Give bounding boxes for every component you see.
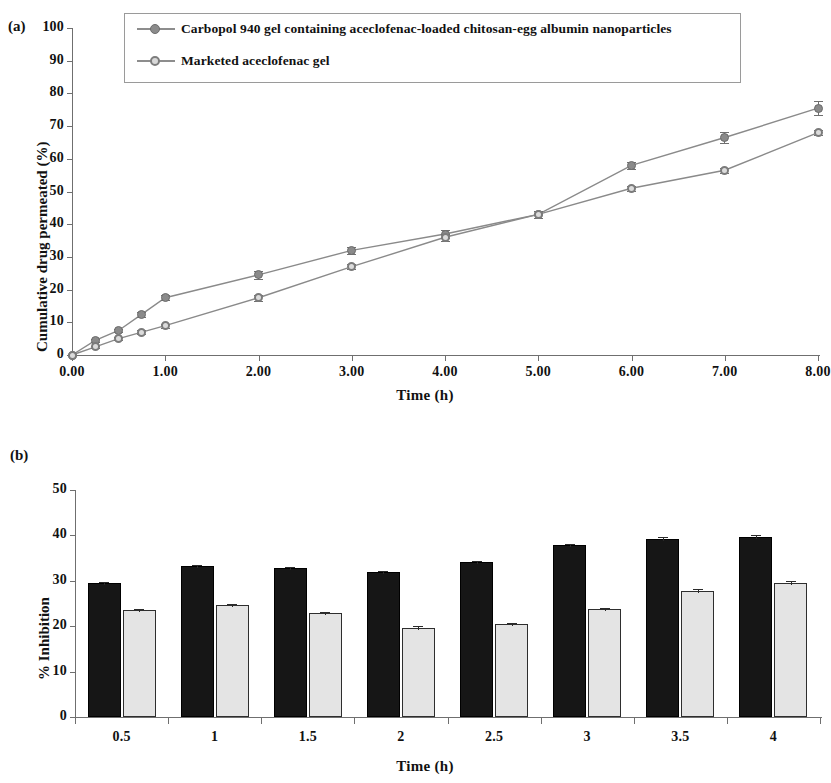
x-tick-label-a: 8.00 — [784, 364, 831, 380]
y-tick-b — [70, 672, 75, 673]
figure-root: (a) Cumulative drug permeated (%) 010203… — [0, 0, 831, 783]
bar-nanoparticle — [274, 568, 307, 717]
data-point-series1 — [534, 210, 543, 219]
y-tick-label-b: 50 — [19, 481, 67, 497]
data-point-series1 — [161, 321, 170, 330]
y-tick-label-a: 60 — [14, 150, 64, 166]
y-tick-label-b: 40 — [19, 526, 67, 542]
x-tick-label-b: 0.5 — [82, 729, 162, 745]
bar-marketed — [402, 628, 435, 717]
legend-entry-marketed-a: Marketed aceclofenac gel — [137, 53, 330, 69]
x-tick-b-end — [820, 718, 821, 724]
legend-label-nanoparticle-a: Carbopol 940 gel containing aceclofenac-… — [181, 21, 672, 37]
bar-error-cap — [192, 565, 202, 566]
bar-nanoparticle — [646, 539, 679, 717]
series-line-1 — [72, 133, 818, 355]
bar-nanoparticle — [460, 562, 493, 717]
line-chart-panel-a: Cumulative drug permeated (%) 0102030405… — [0, 0, 831, 420]
x-axis-title-a: Time (h) — [345, 387, 505, 404]
x-tick-label-a: 1.00 — [131, 364, 199, 380]
legend-label-marketed-a: Marketed aceclofenac gel — [181, 53, 330, 69]
bar-marketed — [495, 624, 528, 717]
bar-nanoparticle — [181, 566, 214, 717]
bar-nanoparticle — [553, 545, 586, 717]
y-tick-label-b: 0 — [19, 708, 67, 724]
data-point-series1 — [814, 128, 823, 137]
bar-error-cap — [320, 612, 330, 613]
data-point-series0 — [814, 104, 823, 113]
y-tick-b — [70, 581, 75, 582]
x-tick-b — [448, 718, 449, 724]
bar-error-cap — [751, 535, 761, 536]
y-tick-b — [70, 626, 75, 627]
x-tick-label-a: 4.00 — [411, 364, 479, 380]
bar-marketed — [588, 609, 621, 717]
legend-line-filled-icon — [137, 28, 175, 30]
error-cap-top-a — [814, 101, 823, 102]
y-tick-label-b: 30 — [19, 572, 67, 588]
y-tick-label-a: 40 — [14, 215, 64, 231]
bar-error-cap — [600, 608, 610, 609]
bar-error-cap — [786, 581, 796, 582]
y-tick-label-a: 70 — [14, 117, 64, 133]
legend-entry-nanoparticle-a: Carbopol 940 gel containing aceclofenac-… — [137, 21, 672, 37]
x-tick-label-a: 7.00 — [691, 364, 759, 380]
x-tick-label-b: 1.5 — [268, 729, 348, 745]
y-tick-label-a: 30 — [14, 248, 64, 264]
x-tick-label-a: 3.00 — [318, 364, 386, 380]
error-cap-bottom-a — [814, 115, 823, 116]
x-tick-b — [168, 718, 169, 724]
y-axis-line-b — [75, 490, 76, 717]
bar-error-cap — [134, 609, 144, 610]
y-tick-label-a: 90 — [14, 52, 64, 68]
x-tick-label-b: 3.5 — [640, 729, 720, 745]
bar-error-cap — [227, 604, 237, 605]
x-tick-label-a: 5.00 — [504, 364, 572, 380]
x-axis-line-b — [75, 717, 822, 718]
bar-marketed — [309, 613, 342, 717]
x-tick-b — [261, 718, 262, 724]
data-point-series1 — [627, 184, 636, 193]
x-tick-b — [541, 718, 542, 724]
bar-error-cap — [507, 623, 517, 624]
x-tick-b — [354, 718, 355, 724]
plot-area-b: 010203040500.511.522.533.54 — [75, 490, 820, 717]
y-tick-label-a: 20 — [14, 281, 64, 297]
error-cap-bottom-a — [720, 143, 729, 144]
y-tick-label-a: 80 — [14, 84, 64, 100]
x-tick-b — [727, 718, 728, 724]
bar-chart-panel-b: % Inhibition 010203040500.511.522.533.54… — [0, 440, 831, 783]
y-tick-label-a: 10 — [14, 313, 64, 329]
data-point-series0 — [161, 293, 170, 302]
bar-marketed — [123, 610, 156, 717]
bar-nanoparticle — [367, 572, 400, 717]
bar-error-cap — [99, 582, 109, 583]
legend-panel-a: Carbopol 940 gel containing aceclofenac-… — [124, 13, 741, 83]
x-axis-title-b: Time (h) — [345, 758, 505, 775]
bar-error-cap — [693, 589, 703, 590]
bar-error-cap — [565, 544, 575, 545]
y-tick-b — [70, 535, 75, 536]
legend-line-open-icon — [137, 60, 175, 62]
x-tick-label-a: 0.00 — [38, 364, 106, 380]
y-tick-label-a: 50 — [14, 183, 64, 199]
x-tick-label-a: 6.00 — [598, 364, 666, 380]
bar-nanoparticle — [88, 583, 121, 717]
x-tick-label-b: 2.5 — [454, 729, 534, 745]
x-tick-label-a: 2.00 — [225, 364, 293, 380]
bar-error-cap — [658, 537, 668, 538]
y-tick-label-b: 10 — [19, 663, 67, 679]
bar-error-cap — [285, 567, 295, 568]
bar-error-cap — [413, 626, 423, 627]
x-tick-label-b: 1 — [175, 729, 255, 745]
data-point-series1 — [441, 233, 450, 242]
data-point-series1 — [720, 166, 729, 175]
data-point-series1 — [68, 351, 77, 360]
y-tick-b — [70, 490, 75, 491]
bar-marketed — [216, 605, 249, 717]
x-tick-b — [75, 718, 76, 724]
x-tick-label-b: 2 — [361, 729, 441, 745]
x-tick-b — [634, 718, 635, 724]
bar-error-cap — [378, 571, 388, 572]
y-tick-label-a: 100 — [14, 19, 64, 35]
